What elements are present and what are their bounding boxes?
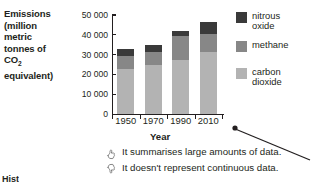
y-axis-tick-label: 30 000 bbox=[82, 50, 108, 59]
bar-1990[interactable] bbox=[172, 31, 189, 114]
co2-subscript: 2 bbox=[18, 60, 22, 67]
plot-area bbox=[113, 15, 224, 114]
callout-arrow bbox=[190, 118, 315, 164]
y-axis-tick-labels: 010 00020 00030 00040 00050 000 bbox=[68, 10, 110, 122]
bar-2010[interactable] bbox=[200, 22, 217, 114]
thumbs-down-icon bbox=[105, 162, 119, 176]
y-axis-title-line-2: (million bbox=[4, 20, 66, 32]
y-axis-tick bbox=[112, 74, 116, 75]
y-axis-tick-label: 0 bbox=[103, 110, 108, 119]
bar-segment-carbon-dioxide bbox=[172, 60, 189, 114]
legend-swatch-carbon-dioxide bbox=[236, 68, 247, 79]
legend-label-line-1: methane bbox=[252, 40, 288, 51]
y-axis-tick-label: 40 000 bbox=[82, 30, 108, 39]
bar-segment-methane bbox=[200, 34, 217, 52]
bar-segment-nitrous-oxide bbox=[117, 49, 134, 56]
legend-item-label: carbondioxide bbox=[252, 67, 282, 88]
bar-segment-carbon-dioxide bbox=[117, 69, 134, 114]
y-axis-tick-label: 50 000 bbox=[82, 11, 108, 20]
bar-segment-methane bbox=[117, 56, 134, 70]
legend-label-line-2: oxide bbox=[252, 21, 280, 32]
bar-1950[interactable] bbox=[117, 49, 134, 114]
legend-swatch-nitrous-oxide bbox=[236, 12, 247, 23]
y-axis-title-line-1: Emissions bbox=[4, 8, 66, 20]
y-axis-tick-label: 10 000 bbox=[82, 90, 108, 99]
co2-text: CO bbox=[4, 54, 18, 65]
y-axis-title-line-6: equivalent) bbox=[4, 70, 66, 82]
y-axis-tick bbox=[112, 94, 116, 95]
legend-item-label: methane bbox=[252, 40, 288, 51]
bar-1970[interactable] bbox=[145, 45, 162, 114]
thumbs-up-icon bbox=[105, 146, 119, 160]
x-axis-tick-label-1970: 1970 bbox=[140, 116, 166, 126]
x-axis-tick-label-1950: 1950 bbox=[113, 116, 139, 126]
stacked-bar-chart: 010 00020 00030 00040 00050 000 19501970… bbox=[68, 10, 228, 122]
y-axis-title: Emissions (million metric tonnes of CO2 … bbox=[4, 8, 66, 81]
legend-label-line-2: dioxide bbox=[252, 77, 282, 88]
y-axis-title-line-3: metric bbox=[4, 31, 66, 43]
bar-segment-methane bbox=[172, 36, 189, 60]
page-footer-cutoff-text: Hist bbox=[2, 174, 19, 183]
y-axis-tick bbox=[112, 34, 116, 35]
legend-swatch-methane bbox=[236, 41, 247, 52]
y-axis-title-line-4: tonnes of bbox=[4, 43, 66, 55]
bar-segment-carbon-dioxide bbox=[200, 52, 217, 114]
bar-segment-nitrous-oxide bbox=[145, 45, 162, 52]
bar-segment-methane bbox=[145, 52, 162, 65]
y-axis-title-line-5: CO2 bbox=[4, 54, 66, 69]
bar-segment-carbon-dioxide bbox=[145, 65, 162, 115]
y-axis-tick bbox=[112, 54, 116, 55]
bar-segment-nitrous-oxide bbox=[200, 22, 217, 34]
y-axis-tick bbox=[112, 14, 116, 15]
legend-item-label: nitrousoxide bbox=[252, 11, 280, 32]
note-item: It doesn't represent continuous data. bbox=[105, 162, 315, 178]
x-axis-title: Year bbox=[150, 131, 170, 142]
y-axis-tick-label: 20 000 bbox=[82, 70, 108, 79]
